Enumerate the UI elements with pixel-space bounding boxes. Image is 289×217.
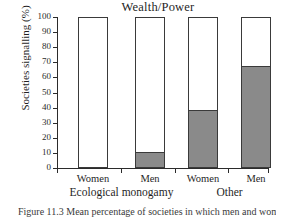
y-tick-label: 70 [27,56,51,66]
y-tick-label: 0 [27,162,51,172]
y-tick-label: 40 [27,102,51,112]
y-tick-label: 80 [27,41,51,51]
y-tick-mark [53,153,57,154]
y-tick-label: 60 [27,71,51,81]
y-tick-label: 10 [27,147,51,157]
y-tick-mark [53,17,57,18]
x-category-label-4: Men [221,173,288,185]
chart-title: Wealth/Power [58,0,258,14]
y-tick-mark [53,47,57,48]
figure-caption: Figure 11.3 Mean percentage of societies… [18,206,276,217]
y-tick-mark [53,62,57,63]
y-tick-label: 90 [27,26,51,36]
bar-fill-4 [242,66,270,167]
y-tick-label: 50 [27,87,51,97]
y-tick-mark [53,93,57,94]
bar-2[interactable] [135,17,165,168]
y-tick-mark [53,138,57,139]
y-axis-line [57,17,58,169]
y-tick-mark [53,32,57,33]
bar-fill-3 [189,110,217,167]
y-tick-mark [53,123,57,124]
bar-4[interactable] [241,17,271,168]
y-tick-label: 20 [27,132,51,142]
y-tick-mark [53,108,57,109]
plot-area: 0102030405060708090100 [57,17,269,169]
figure-wealth-power: Wealth/Power Societies signalling (%) 01… [0,0,288,217]
bar-3[interactable] [188,17,218,168]
y-tick-label: 100 [27,11,51,21]
x-group-label-2: Other [160,186,289,199]
y-tick-label: 30 [27,117,51,127]
x-axis-line [57,168,269,169]
bar-1[interactable] [78,17,108,168]
bar-fill-2 [136,152,164,167]
y-tick-mark [53,77,57,78]
